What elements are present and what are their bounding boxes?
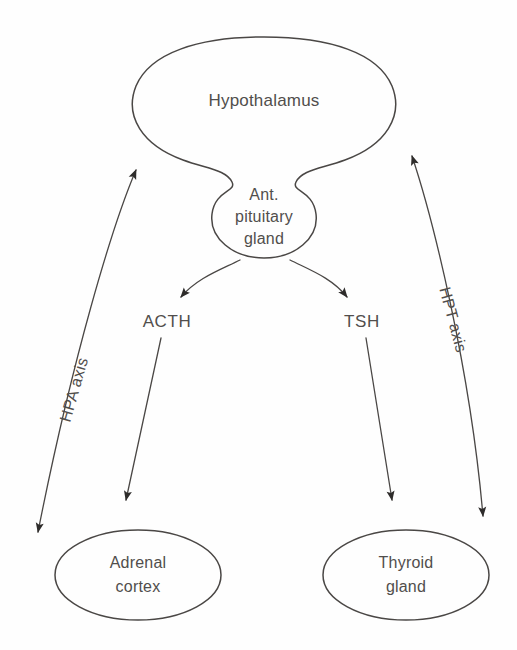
adrenal-cortex-shape xyxy=(55,530,221,620)
pituitary-label-line1: Ant. xyxy=(249,186,278,203)
arrow-tsh-to-thyroid xyxy=(366,338,392,500)
adrenal-label-line1: Adrenal xyxy=(110,554,167,571)
hypothalamus-label: Hypothalamus xyxy=(208,91,319,110)
thyroid-label-line1: Thyroid xyxy=(379,554,434,571)
hormone-label-acth: ACTH xyxy=(143,312,192,331)
diagram-root: Hypothalamus Ant. pituitary gland ACTH T… xyxy=(0,0,517,650)
thyroid-gland-shape xyxy=(323,530,489,620)
hpt-axis-arrow xyxy=(412,156,483,516)
arrow-acth-to-adrenal xyxy=(126,338,161,500)
pituitary-label-line3: gland xyxy=(244,230,284,247)
thyroid-label-line2: gland xyxy=(386,578,426,595)
pituitary-label-line2: pituitary xyxy=(235,208,293,225)
adrenal-label-line2: cortex xyxy=(116,578,161,595)
hormone-label-tsh: TSH xyxy=(344,312,380,331)
hpa-axis-arrow xyxy=(38,170,136,532)
diagram-canvas: Hypothalamus Ant. pituitary gland ACTH T… xyxy=(0,0,517,650)
axis-label-hpa: HPA axis xyxy=(56,356,91,424)
axis-label-hpt: HPT axis xyxy=(436,285,470,354)
arrow-pituitary-to-acth xyxy=(181,260,240,297)
arrow-pituitary-to-tsh xyxy=(290,260,347,297)
